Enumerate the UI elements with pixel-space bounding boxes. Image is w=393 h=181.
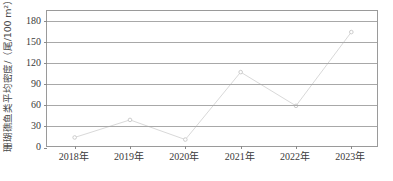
data-point-marker bbox=[350, 30, 354, 34]
gridline bbox=[47, 21, 377, 22]
y-axis-tick-label: 90 bbox=[31, 79, 41, 89]
y-axis-tick-label: 180 bbox=[26, 16, 41, 26]
plot-area bbox=[46, 10, 378, 147]
gridline bbox=[47, 63, 377, 64]
y-axis-tickmark bbox=[44, 148, 47, 149]
y-axis-tickmark bbox=[44, 42, 47, 43]
data-series-line bbox=[47, 11, 379, 148]
y-axis-title-container: 珊瑚礁鱼类平均密度/（尾/100 m²） bbox=[0, 0, 16, 152]
x-axis-tick-label: 2020年 bbox=[169, 150, 199, 164]
x-axis-tick-label: 2021年 bbox=[225, 150, 255, 164]
data-point-marker bbox=[128, 118, 132, 122]
y-axis-tickmark bbox=[44, 84, 47, 85]
x-axis-tickmark bbox=[130, 146, 131, 149]
y-axis-tick-labels: 0306090120150180 bbox=[16, 0, 44, 181]
gridline bbox=[47, 42, 377, 43]
y-axis-tickmark bbox=[44, 63, 47, 64]
y-axis-title: 珊瑚礁鱼类平均密度/（尾/100 m²） bbox=[0, 0, 16, 152]
x-axis-tick-label: 2018年 bbox=[59, 150, 89, 164]
y-axis-tickmark bbox=[44, 126, 47, 127]
x-axis-tickmark bbox=[351, 146, 352, 149]
y-axis-tick-label: 60 bbox=[31, 100, 41, 110]
gridline bbox=[47, 84, 377, 85]
x-axis-tickmark bbox=[296, 146, 297, 149]
data-point-marker bbox=[239, 70, 243, 74]
data-point-marker bbox=[73, 136, 77, 140]
x-axis-tick-label: 2019年 bbox=[114, 150, 144, 164]
y-axis-tick-label: 0 bbox=[36, 142, 41, 152]
x-axis-tick-label: 2023年 bbox=[335, 150, 365, 164]
y-axis-tickmark bbox=[44, 21, 47, 22]
gridline bbox=[47, 105, 377, 106]
gridline bbox=[47, 126, 377, 127]
chart-figure: 珊瑚礁鱼类平均密度/（尾/100 m²） 0306090120150180 20… bbox=[0, 0, 393, 181]
data-point-marker bbox=[184, 138, 188, 142]
y-axis-tick-label: 30 bbox=[31, 121, 41, 131]
x-axis-tickmark bbox=[75, 146, 76, 149]
y-axis-tickmark bbox=[44, 105, 47, 106]
x-axis-tick-labels: 2018年2019年2020年2021年2022年2023年 bbox=[46, 150, 378, 168]
x-axis-tickmark bbox=[185, 146, 186, 149]
y-axis-tick-label: 150 bbox=[26, 37, 41, 47]
series-polyline bbox=[75, 32, 352, 139]
x-axis-tick-label: 2022年 bbox=[280, 150, 310, 164]
x-axis-tickmark bbox=[241, 146, 242, 149]
y-axis-tick-label: 120 bbox=[26, 58, 41, 68]
